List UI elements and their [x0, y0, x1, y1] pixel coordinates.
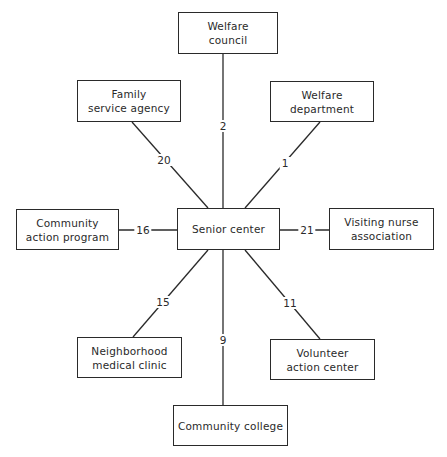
node-label-line: Neighborhood [91, 344, 167, 358]
node-label-line: action center [286, 360, 358, 374]
edge-label-welfare-department: 1 [280, 157, 291, 169]
node-label-line: Visiting nurse [344, 215, 418, 229]
node-label-line: association [344, 229, 418, 243]
node-label-line: Community [26, 216, 109, 230]
node-label-line: medical clinic [91, 358, 167, 372]
node-neighborhood-medical-clinic: Neighborhoodmedical clinic [77, 337, 182, 378]
edge-line-neighborhood-clinic [133, 250, 208, 337]
node-label-line: service agency [88, 101, 170, 115]
node-label-line: Welfare [207, 19, 248, 33]
node-visiting-nurse-association: Visiting nurseassociation [329, 208, 434, 250]
edge-label-neighborhood-clinic: 15 [154, 296, 171, 308]
node-volunteer-action-center: Volunteeraction center [270, 339, 375, 380]
node-label-line: Welfare [290, 88, 354, 102]
node-welfare-department: Welfaredepartment [270, 81, 374, 122]
edge-label-volunteer-center: 11 [281, 297, 298, 309]
node-label-line: action program [26, 230, 109, 244]
edge-label-visiting-nurse: 21 [298, 224, 315, 236]
node-community-college: Community college [173, 405, 288, 446]
referral-network-diagram: 2 20 1 16 21 15 11 9 Welfarecouncil Fami… [0, 0, 447, 457]
node-family-service-agency: Familyservice agency [77, 80, 181, 122]
edge-label-community-college: 9 [218, 334, 229, 346]
node-label-line: department [290, 102, 354, 116]
node-label-line: Community college [178, 419, 283, 433]
node-community-action-program: Communityaction program [16, 209, 119, 250]
node-label-line: Senior center [192, 222, 265, 236]
edge-line-volunteer-center [245, 250, 320, 339]
edge-label-family-service: 20 [155, 154, 172, 166]
edge-label-welfare-council: 2 [218, 120, 229, 132]
node-label-line: Volunteer [286, 346, 358, 360]
node-label-line: council [207, 33, 248, 47]
node-welfare-council: Welfarecouncil [178, 12, 278, 54]
edge-label-community-action: 16 [134, 224, 151, 236]
node-label-line: Family [88, 87, 170, 101]
node-senior-center: Senior center [177, 208, 280, 250]
